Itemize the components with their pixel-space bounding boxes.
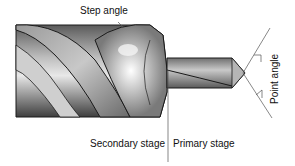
point-angle-tick-lower <box>256 90 262 98</box>
primary-stage-label: Primary stage <box>173 139 235 149</box>
step-angle-label: Step angle <box>80 6 128 16</box>
secondary-stage-label: Secondary stage <box>90 139 165 149</box>
point-angle-line-upper <box>243 28 270 73</box>
point-angle-label: Point angle <box>270 54 280 104</box>
point-angle-line-lower <box>243 73 272 118</box>
point-angle-tick-upper <box>254 55 261 62</box>
secondary-stage-body <box>16 25 167 117</box>
primary-stage-pilot <box>167 58 245 88</box>
